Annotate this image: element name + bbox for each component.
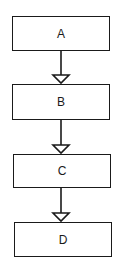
arrow-b-to-c [53, 120, 69, 153]
node-b: B [12, 84, 110, 120]
node-c: C [13, 154, 111, 188]
node-d: D [14, 222, 112, 257]
node-b-label: B [57, 95, 65, 109]
node-c-label: C [58, 164, 67, 178]
node-d-label: D [59, 233, 68, 247]
node-a: A [12, 16, 110, 51]
arrow-a-to-b [53, 51, 69, 83]
arrow-c-to-d [53, 188, 69, 221]
node-a-label: A [57, 27, 65, 41]
